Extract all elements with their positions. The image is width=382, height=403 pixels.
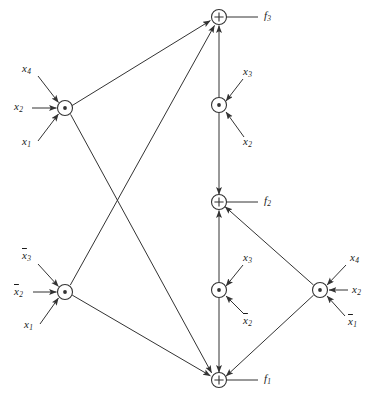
output-label-f2: f2 xyxy=(264,195,271,208)
stub-in-x4-to-and-br xyxy=(327,265,346,285)
node-f1-xor xyxy=(212,373,227,388)
node-and-bottom-left xyxy=(58,285,73,300)
stub-in-x2bar-to-and-bm xyxy=(226,296,244,314)
stub-in-x4-to-and-tl xyxy=(38,76,59,103)
input-label-x2bar-and-bottom-left: x2 xyxy=(14,285,23,298)
input-label-x2-and-top-left: x2 xyxy=(14,101,23,114)
gate-nodes xyxy=(58,10,328,388)
node-and-bottom-middle xyxy=(212,283,227,298)
edge-and-br-to-f1 xyxy=(226,295,314,376)
input-label-x1-and-top-left: x1 xyxy=(22,136,31,149)
node-f3-xor xyxy=(212,10,227,25)
input-label-x4-and-bottom-right: x4 xyxy=(350,252,359,265)
input-label-x3-and-bottom-middle: x3 xyxy=(243,252,252,265)
stub-in-x3bar-to-and-bl xyxy=(38,264,59,287)
stub-in-x1-to-and-bl xyxy=(40,298,59,324)
output-label-f1: f1 xyxy=(264,373,271,386)
edge-and-tl-to-f3 xyxy=(72,21,210,106)
input-stub-edges xyxy=(32,76,348,324)
input-label-x2bar-and-bottom-middle: x2 xyxy=(243,314,252,327)
edge-and-bl-to-f1 xyxy=(72,295,210,376)
node-f2-xor xyxy=(212,195,227,210)
input-label-x1bar-and-bottom-right: x1 xyxy=(348,315,357,328)
stub-in-x3-to-and-bm xyxy=(226,265,243,286)
stub-in-x1-to-and-tl xyxy=(38,114,59,141)
stub-in-x3-to-and-tm xyxy=(226,79,243,101)
node-and-bottom-right xyxy=(313,283,328,298)
stub-in-x2-to-and-tm xyxy=(226,112,244,137)
node-and-top-middle xyxy=(212,98,227,113)
edge-and-tl-to-f1 xyxy=(71,114,212,373)
input-label-x3-and-top-middle: x3 xyxy=(243,66,252,79)
input-label-x2-and-top-middle: x2 xyxy=(243,136,252,149)
input-label-x4-and-top-left: x4 xyxy=(22,63,31,76)
inter-node-edges xyxy=(70,21,313,377)
input-label-x3bar-and-bottom-left: x3 xyxy=(22,249,31,262)
stub-in-x1bar-to-and-br xyxy=(327,296,345,316)
edge-and-br-to-f2 xyxy=(225,207,314,286)
logic-network-diagram: f3 f2 f1 x4 x2 x1 x3 x2 x3 x2 x1 x3 x2 x… xyxy=(0,0,382,403)
input-label-x2-and-bottom-right: x2 xyxy=(352,284,361,297)
output-label-f3: f3 xyxy=(264,10,271,23)
input-label-x1-and-bottom-left: x1 xyxy=(24,319,33,332)
diagram-canvas xyxy=(0,0,382,403)
node-and-top-left xyxy=(58,101,73,116)
